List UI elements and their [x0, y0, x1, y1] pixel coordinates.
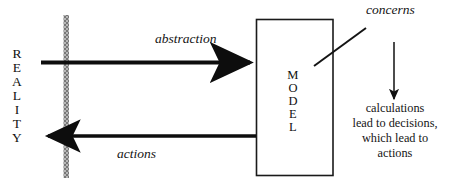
abstraction-edge-label: abstraction	[155, 31, 217, 47]
concerns-annotation-label: concerns	[366, 2, 415, 18]
model-letter: D	[288, 95, 297, 108]
model-letter: L	[289, 121, 297, 134]
reality-node-label: R E A L I T Y	[6, 46, 28, 146]
model-node-label: M O D E L	[281, 60, 305, 142]
model-letter: O	[288, 82, 297, 95]
reality-letter: Y	[12, 131, 22, 145]
outcome-line: which lead to	[339, 131, 451, 146]
outcome-line: lead to decisions,	[339, 116, 451, 131]
reality-letter: E	[13, 61, 21, 75]
outcome-annotation-text: calculations lead to decisions, which le…	[339, 101, 451, 161]
reality-letter: R	[12, 47, 21, 61]
reality-letter: L	[13, 89, 21, 103]
outcome-line: actions	[339, 146, 451, 161]
reality-letter: I	[15, 103, 20, 117]
actions-edge-label: actions	[117, 146, 156, 162]
diagram-canvas: R E A L I T Y M O D E L abstraction acti…	[0, 0, 452, 183]
reality-model-boundary	[64, 15, 70, 178]
reality-letter: T	[13, 117, 21, 131]
model-letter: E	[289, 108, 297, 121]
model-letter: M	[287, 69, 298, 82]
reality-letter: A	[12, 75, 22, 89]
outcome-line: calculations	[339, 101, 451, 116]
